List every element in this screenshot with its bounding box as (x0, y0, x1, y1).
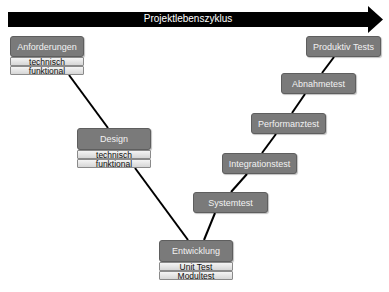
acceptance-test-box: Abnahmetest (281, 73, 356, 94)
system-test-box: Systemtest (193, 192, 268, 213)
integration-test-box: Integrationstest (222, 153, 297, 174)
connector-line (69, 75, 108, 128)
requirements-box: Anforderungen (10, 36, 84, 57)
connector-line (292, 94, 305, 113)
design-technical: technisch (77, 150, 151, 159)
design-functional: funktional (77, 159, 151, 168)
development-box: Entwicklung (159, 240, 233, 262)
performance-test-box: Performanztest (251, 113, 326, 134)
development-module-test: Modultest (159, 271, 233, 280)
design-box: Design (77, 128, 151, 150)
connector-line (262, 134, 276, 153)
requirements-technical: technisch (10, 57, 84, 66)
connector-line (204, 213, 215, 240)
production-tests-box: Produktiv Tests (306, 36, 381, 57)
requirements-functional: funktional (10, 66, 84, 75)
connector-line (322, 57, 334, 73)
lifecycle-arrow-label: Projektlebenszyklus (8, 11, 368, 27)
development-unit-test: Unit Test (159, 262, 233, 271)
connector-line (135, 168, 188, 240)
connector-line (231, 174, 247, 192)
